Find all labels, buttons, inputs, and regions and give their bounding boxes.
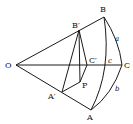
label-arc-a: a bbox=[115, 35, 119, 43]
label-B-prime: B′ bbox=[72, 21, 80, 30]
line-BprimeCprime bbox=[79, 30, 87, 65]
label-A: A bbox=[86, 113, 93, 122]
label-O: O bbox=[5, 61, 12, 70]
arc-a bbox=[104, 17, 122, 65]
label-arc-c: c bbox=[108, 57, 112, 65]
line-BprimeP bbox=[79, 30, 80, 82]
label-A-prime: A′ bbox=[47, 92, 56, 101]
label-C: C bbox=[124, 61, 130, 70]
label-B: B bbox=[100, 5, 106, 14]
label-P: P bbox=[82, 81, 88, 90]
line-BprimeAprime bbox=[62, 30, 79, 92]
label-arc-b: b bbox=[115, 85, 120, 93]
spherical-triangle-diagram: O B B′ C C′ A A′ P a b c bbox=[0, 0, 133, 124]
label-C-prime: C′ bbox=[89, 56, 97, 65]
line-CprimeP bbox=[80, 65, 87, 82]
